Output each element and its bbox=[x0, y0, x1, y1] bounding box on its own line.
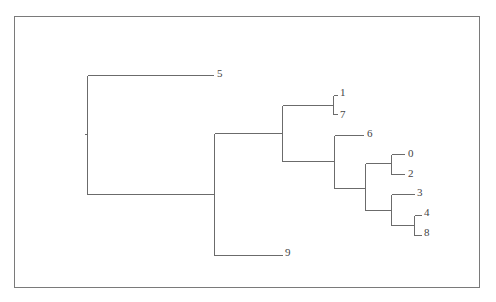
leaf-label-9: 9 bbox=[285, 246, 291, 258]
leaf-label-2: 2 bbox=[408, 167, 414, 179]
leaf-label-8: 8 bbox=[424, 226, 430, 238]
dendrogram: 5 1 7 6 0 2 3 4 8 9 bbox=[0, 0, 496, 302]
leaf-label-6: 6 bbox=[367, 127, 373, 139]
leaf-label-7: 7 bbox=[340, 108, 346, 120]
leaf-label-5: 5 bbox=[217, 67, 223, 79]
leaf-label-0: 0 bbox=[408, 147, 414, 159]
leaf-label-4: 4 bbox=[424, 206, 430, 218]
leaf-label-1: 1 bbox=[340, 86, 346, 98]
leaf-label-3: 3 bbox=[417, 186, 423, 198]
